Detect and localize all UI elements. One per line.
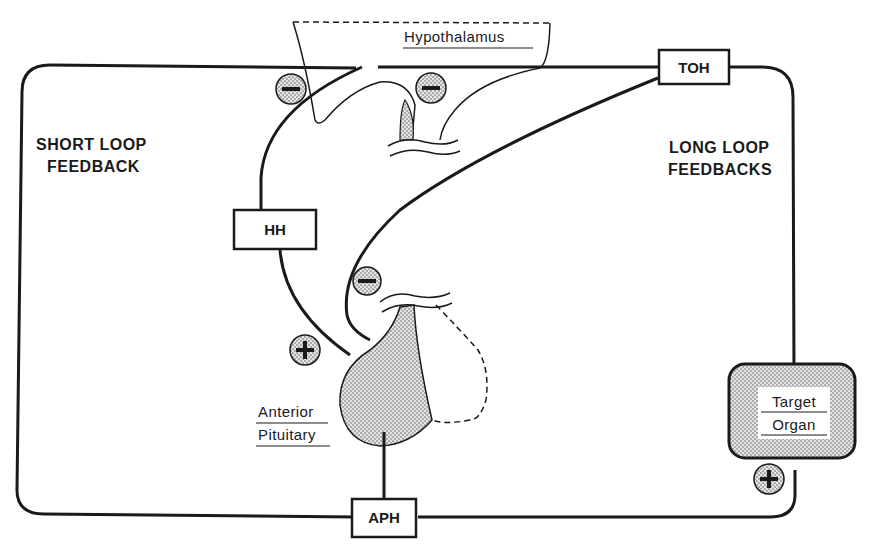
anterior-label: Anterior <box>258 403 314 420</box>
pituitary-stalk-cut-lower <box>382 303 452 312</box>
stalk-cut-upper <box>388 140 458 146</box>
svg-text:APH: APH <box>368 509 400 526</box>
minus-sign-pituitary <box>353 267 381 295</box>
median-eminence <box>400 100 413 140</box>
svg-text:Target: Target <box>772 393 817 410</box>
toh-box: TOH <box>659 50 729 84</box>
posterior-pituitary <box>432 305 487 423</box>
toh-to-pituitary-arrow <box>346 78 658 340</box>
plus-sign-target <box>754 464 784 494</box>
feedback-diagram: Hypothalamus Anterior Pituitary TOH HH A… <box>0 0 881 546</box>
minus-sign-hypothalamus <box>416 73 446 103</box>
aph-box: APH <box>352 499 416 537</box>
minus-sign-short-loop <box>276 74 306 104</box>
pituitary-stalk-cut-upper <box>380 293 450 302</box>
plus-sign-pituitary <box>290 335 320 365</box>
target-organ-box: Target Organ <box>729 364 855 458</box>
long-loop-label-line2: FEEDBACKS <box>668 161 772 178</box>
svg-text:HH: HH <box>264 221 286 238</box>
long-loop-top-path <box>730 67 794 375</box>
stalk-cut-lower <box>390 150 460 156</box>
hh-box: HH <box>234 210 316 249</box>
svg-text:TOH: TOH <box>678 59 709 76</box>
long-loop-label-line1: LONG LOOP <box>669 139 770 156</box>
aph-to-target-path <box>418 470 795 517</box>
hypothalamus-label: Hypothalamus <box>404 28 505 45</box>
short-loop-path <box>17 65 356 517</box>
hypothalamus-outline-left <box>293 22 415 138</box>
short-loop-label-line2: FEEDBACK <box>47 158 140 175</box>
svg-text:Organ: Organ <box>772 416 816 433</box>
short-loop-label-line1: SHORT LOOP <box>36 136 147 153</box>
hypothalamus-outline <box>293 22 550 23</box>
pituitary-label: Pituitary <box>258 426 316 443</box>
